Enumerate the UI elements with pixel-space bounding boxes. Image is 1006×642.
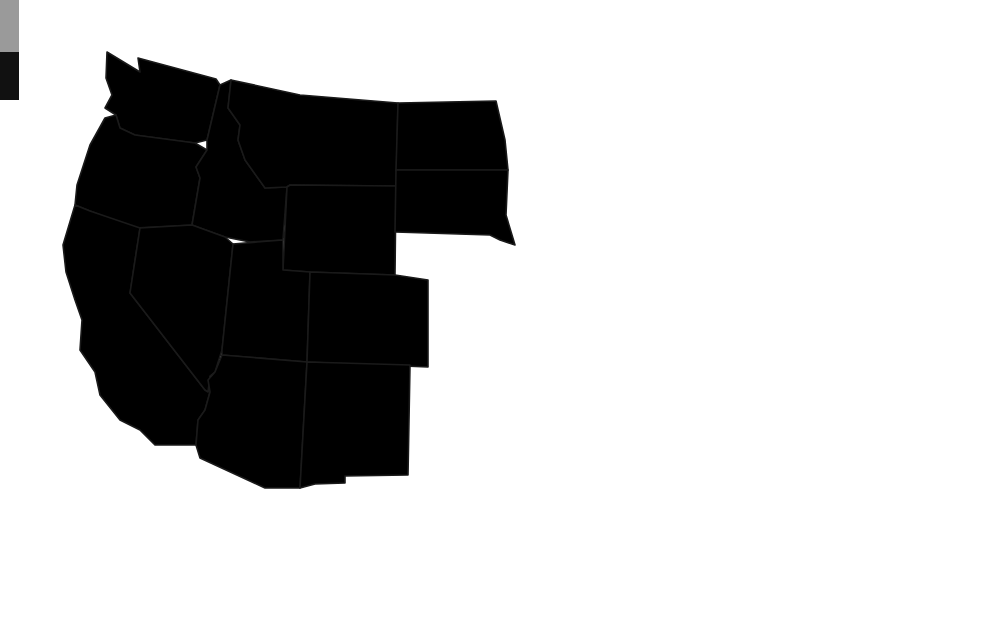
state-new-mexico[interactable] <box>300 362 410 488</box>
state-wyoming[interactable] <box>283 185 396 275</box>
state-colorado[interactable] <box>307 272 428 367</box>
state-north-dakota[interactable] <box>396 101 508 170</box>
state-arizona[interactable] <box>196 355 307 488</box>
state-south-dakota[interactable] <box>395 170 515 245</box>
us-state-map: /> <box>0 0 1006 642</box>
state-montana[interactable] <box>228 80 398 188</box>
